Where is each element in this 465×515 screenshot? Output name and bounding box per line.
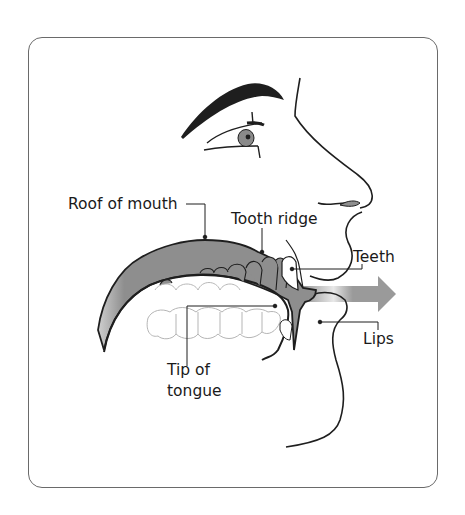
label-tooth-ridge: Tooth ridge xyxy=(231,210,318,229)
eyebrow xyxy=(181,83,284,139)
label-lips: Lips xyxy=(363,330,394,349)
nostril xyxy=(340,201,360,206)
label-tip-of-tongue-line2: tongue xyxy=(167,382,222,401)
label-roof-of-mouth: Roof of mouth xyxy=(68,195,178,214)
eye xyxy=(204,112,264,158)
lower-tooth-front xyxy=(280,320,292,340)
pale-lower-teeth xyxy=(147,308,280,339)
mouth-anatomy-illustration xyxy=(0,0,465,515)
label-teeth: Teeth xyxy=(353,248,395,267)
pale-upper-teeth xyxy=(155,283,240,291)
label-tip-of-tongue-line1: Tip of xyxy=(167,361,210,380)
